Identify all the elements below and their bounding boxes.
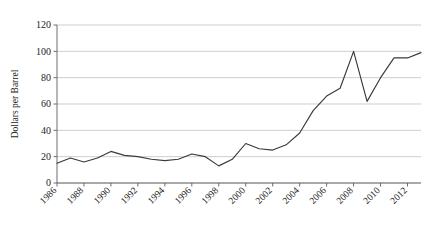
y-axis bbox=[54, 25, 58, 183]
x-tick-label: 1988 bbox=[65, 185, 86, 206]
y-tick-label: 60 bbox=[41, 98, 51, 109]
x-tick-label: 1996 bbox=[173, 185, 194, 206]
y-tick-label: 80 bbox=[41, 72, 51, 83]
x-tick-label: 2002 bbox=[254, 185, 275, 206]
x-tick-label: 1992 bbox=[119, 185, 140, 206]
x-tick-label: 1990 bbox=[92, 185, 113, 206]
x-tick-label: 2000 bbox=[227, 185, 248, 206]
x-tick-label: 2006 bbox=[308, 185, 329, 206]
y-axis-tick-labels: 020406080100120 bbox=[36, 19, 51, 188]
grid-lines bbox=[57, 25, 421, 183]
x-tick-label: 1998 bbox=[200, 185, 221, 206]
x-tick-label: 1986 bbox=[38, 185, 59, 206]
line-chart: 020406080100120 198619881990199219941996… bbox=[0, 0, 440, 235]
x-tick-label: 2010 bbox=[361, 185, 382, 206]
x-tick-label: 1994 bbox=[146, 185, 167, 206]
y-tick-label: 20 bbox=[41, 151, 51, 162]
x-axis-tick-labels: 1986198819901992199419961998200020022004… bbox=[38, 185, 409, 206]
y-axis-label: Dollars per Barrel bbox=[10, 69, 20, 138]
chart-container: 020406080100120 198619881990199219941996… bbox=[0, 0, 440, 235]
x-tick-label: 2008 bbox=[335, 185, 356, 206]
x-tick-label: 2004 bbox=[281, 185, 302, 206]
data-series-line bbox=[57, 51, 421, 166]
y-tick-label: 100 bbox=[36, 46, 51, 57]
x-tick-label: 2012 bbox=[388, 185, 409, 206]
y-tick-label: 120 bbox=[36, 19, 51, 30]
y-tick-label: 40 bbox=[41, 125, 51, 136]
